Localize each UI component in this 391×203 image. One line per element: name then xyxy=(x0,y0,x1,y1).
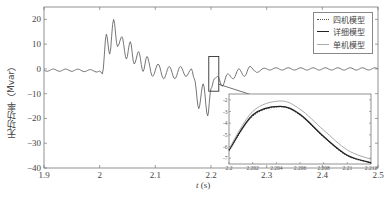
legend-item-detailed: 详细模型 xyxy=(314,26,372,39)
svg-text:0: 0 xyxy=(37,64,42,74)
inset-frame xyxy=(229,94,371,164)
svg-text:2.206: 2.206 xyxy=(294,165,307,171)
y-axis-label: 无功功率（Mvar） xyxy=(4,40,18,160)
legend-item-four-machine: 四机模型 xyxy=(314,13,372,26)
svg-text:1.9: 1.9 xyxy=(38,170,50,180)
light-line-icon xyxy=(317,44,329,45)
svg-text:−30: −30 xyxy=(27,138,42,148)
zoom-box xyxy=(209,57,219,92)
inset-zoom-chart: -2-3-4-5-6-7 2.22.2022.2042.2062.2082.21… xyxy=(223,94,378,171)
solid-line-icon xyxy=(317,31,329,32)
svg-text:−20: −20 xyxy=(27,113,42,123)
svg-text:2.3: 2.3 xyxy=(261,170,273,180)
svg-text:2.204: 2.204 xyxy=(270,165,283,171)
legend-label: 详细模型 xyxy=(333,26,365,37)
svg-text:-3: -3 xyxy=(223,109,228,115)
svg-text:10: 10 xyxy=(32,39,42,49)
svg-text:-6: -6 xyxy=(223,144,228,150)
svg-text:-4: -4 xyxy=(223,120,228,126)
legend-label: 四机模型 xyxy=(333,14,365,25)
legend: 四机模型 详细模型 单机模型 xyxy=(313,12,373,54)
zoom-arrow xyxy=(219,84,252,95)
dotted-line-icon xyxy=(317,19,329,20)
svg-text:2.212: 2.212 xyxy=(365,165,378,171)
svg-text:-5: -5 xyxy=(223,132,228,138)
svg-text:-7: -7 xyxy=(223,155,228,161)
legend-label: 单机模型 xyxy=(333,39,365,50)
svg-text:−10: −10 xyxy=(27,89,42,99)
svg-text:-2: -2 xyxy=(223,97,228,103)
legend-item-single-machine: 单机模型 xyxy=(314,38,372,51)
svg-text:2.208: 2.208 xyxy=(317,165,330,171)
x-axis-label: t (s) xyxy=(196,180,210,190)
svg-text:2.2: 2.2 xyxy=(226,165,233,171)
svg-text:2.2: 2.2 xyxy=(205,170,216,180)
svg-text:2.4: 2.4 xyxy=(317,170,329,180)
svg-text:2.5: 2.5 xyxy=(372,170,384,180)
svg-text:20: 20 xyxy=(32,14,42,24)
svg-text:2.21: 2.21 xyxy=(343,165,353,171)
svg-text:2.1: 2.1 xyxy=(150,170,161,180)
svg-text:2.202: 2.202 xyxy=(246,165,259,171)
svg-text:2: 2 xyxy=(97,170,102,180)
